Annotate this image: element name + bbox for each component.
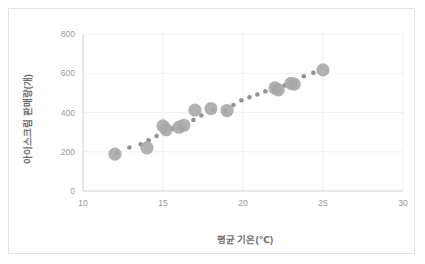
- trend-dot: [263, 89, 268, 94]
- y-tick-label: 800: [61, 29, 75, 39]
- trend-dot: [302, 74, 307, 79]
- data-point: [177, 119, 190, 132]
- data-point: [160, 123, 173, 136]
- x-tick-label: 15: [158, 198, 168, 208]
- data-point: [220, 104, 233, 117]
- y-tick-labels-group: 0200400600800: [61, 29, 75, 196]
- data-point: [272, 83, 285, 96]
- x-tick-labels-group: 1015202530: [78, 198, 408, 208]
- trend-dot: [154, 134, 159, 139]
- trend-dot: [247, 95, 252, 100]
- y-tick-label: 200: [61, 147, 75, 157]
- gridlines-group: [83, 34, 403, 191]
- trend-dot: [191, 118, 196, 123]
- y-tick-label: 600: [61, 68, 75, 78]
- y-tick-label: 0: [70, 186, 75, 196]
- data-point: [108, 148, 121, 161]
- data-point: [188, 104, 201, 117]
- trend-dot: [311, 71, 316, 76]
- x-axis-title: 평균 기온(℃): [217, 234, 273, 245]
- y-axis-title: 아이스크림 판매량(개): [22, 74, 33, 164]
- x-tick-label: 20: [238, 198, 248, 208]
- trend-dot: [255, 92, 260, 97]
- data-point: [288, 77, 301, 90]
- chart-plot-area: 0200400600800 1015202530 평균 기온(℃) 아이스크림 …: [9, 9, 416, 255]
- x-tick-label: 25: [318, 198, 328, 208]
- data-point: [316, 63, 329, 76]
- x-tick-label: 10: [78, 198, 88, 208]
- x-tick-label: 30: [398, 198, 408, 208]
- chart-frame: 0200400600800 1015202530 평균 기온(℃) 아이스크림 …: [8, 8, 415, 254]
- y-tick-label: 400: [61, 108, 75, 118]
- scatter-chart: 0200400600800 1015202530 평균 기온(℃) 아이스크림 …: [9, 9, 416, 255]
- trend-dot: [239, 98, 244, 103]
- data-point: [204, 102, 217, 115]
- trend-dot: [127, 145, 132, 150]
- data-point: [140, 141, 153, 154]
